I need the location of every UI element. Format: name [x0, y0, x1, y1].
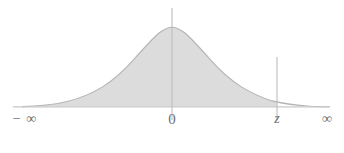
- normal-distribution-figure: − ∞ 0 z ∞: [0, 0, 344, 153]
- axis-label-positive-infinity: ∞: [306, 112, 344, 126]
- axis-label-z: z: [257, 112, 297, 126]
- shaded-area-to-z: [22, 27, 277, 106]
- normal-curve-plot: [0, 0, 344, 153]
- axis-label-negative-infinity: − ∞: [4, 112, 46, 126]
- axis-label-zero: 0: [152, 112, 192, 127]
